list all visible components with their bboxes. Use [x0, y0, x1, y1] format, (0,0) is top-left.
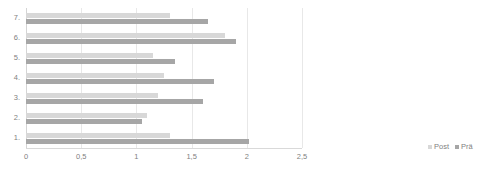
legend-swatch-icon — [455, 145, 459, 149]
legend-item-pr[interactable]: Prä — [455, 143, 473, 151]
bar-post-4 — [26, 73, 164, 78]
y-axis-label-3: 3. — [14, 94, 20, 102]
bar-pr-3 — [26, 99, 203, 104]
bar-pr-1 — [26, 139, 249, 144]
bar-pr-5 — [26, 59, 175, 64]
bar-post-1 — [26, 133, 170, 138]
bar-chart: 7.6.5.4.3.2.1. 00,511,522,5 PostPrä — [0, 0, 484, 176]
bar-group — [26, 88, 302, 108]
y-axis-labels: 7.6.5.4.3.2.1. — [0, 8, 24, 148]
y-axis-label-6: 6. — [14, 34, 20, 42]
bar-pr-4 — [26, 79, 214, 84]
bar-group — [26, 128, 302, 148]
bar-pr-2 — [26, 119, 142, 124]
bar-group — [26, 28, 302, 48]
bar-post-7 — [26, 13, 170, 18]
legend-swatch-icon — [428, 145, 432, 149]
gridline-2-5 — [302, 8, 303, 148]
y-axis-label-7: 7. — [14, 14, 20, 22]
x-axis-line — [26, 148, 302, 149]
bar-group — [26, 68, 302, 88]
plot-area — [26, 8, 302, 148]
bar-pr-6 — [26, 39, 236, 44]
legend-label: Post — [434, 143, 449, 151]
y-axis-label-2: 2. — [14, 114, 20, 122]
x-axis-label-2: 2 — [245, 152, 249, 161]
bar-post-2 — [26, 113, 147, 118]
x-axis-label-1-5: 1,5 — [186, 152, 196, 161]
y-axis-label-1: 1. — [14, 134, 20, 142]
legend-label: Prä — [461, 143, 473, 151]
bar-group — [26, 48, 302, 68]
x-axis-labels: 00,511,522,5 — [26, 152, 302, 166]
bar-post-6 — [26, 33, 225, 38]
bar-group — [26, 108, 302, 128]
x-axis-label-1: 1 — [134, 152, 138, 161]
x-axis-label-2-5: 2,5 — [297, 152, 307, 161]
y-axis-label-4: 4. — [14, 74, 20, 82]
bar-group — [26, 8, 302, 28]
legend-item-post[interactable]: Post — [428, 143, 449, 151]
bar-pr-7 — [26, 19, 208, 24]
bar-post-3 — [26, 93, 158, 98]
bar-rows — [26, 8, 302, 148]
bar-post-5 — [26, 53, 153, 58]
x-axis-label-0: 0 — [24, 152, 28, 161]
y-axis-label-5: 5. — [14, 54, 20, 62]
chart-legend: PostPrä — [428, 143, 473, 151]
x-axis-label-0-5: 0,5 — [76, 152, 86, 161]
